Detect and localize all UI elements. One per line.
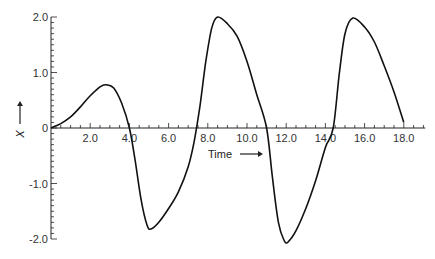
y-axis-label-text: X: [14, 130, 26, 139]
y-axis-label: X: [14, 101, 26, 139]
y-axis-arrowhead-icon: [17, 101, 23, 106]
x-tick-label: 18.0: [393, 132, 414, 144]
y-tick-label: 1.0: [33, 67, 48, 79]
x-tick-label: 12.0: [275, 132, 296, 144]
x-tick-label: 10.0: [236, 132, 257, 144]
x-tick-label: 6.0: [161, 132, 176, 144]
x-tick-label: 2.0: [83, 132, 98, 144]
data-line: [51, 17, 404, 243]
chart: 2.01.00-1.0-2.0 2.04.06.08.010.012.014.0…: [0, 0, 435, 259]
x-tick-label: 16.0: [354, 132, 375, 144]
x-axis: [51, 123, 425, 128]
x-tick-label: 4.0: [122, 132, 137, 144]
y-tick-label: -1.0: [29, 178, 48, 190]
x-axis-label: Time: [208, 148, 263, 160]
x-axis-arrowhead-icon: [258, 151, 263, 157]
x-tick-label: 8.0: [200, 132, 215, 144]
y-tick-label: 0: [42, 122, 48, 134]
y-tick-label: 2.0: [33, 11, 48, 23]
x-axis-label-text: Time: [208, 148, 232, 160]
y-tick-labels: 2.01.00-1.0-2.0: [29, 11, 48, 245]
x-tick-label: 14.0: [315, 132, 336, 144]
y-tick-label: -2.0: [29, 233, 48, 245]
